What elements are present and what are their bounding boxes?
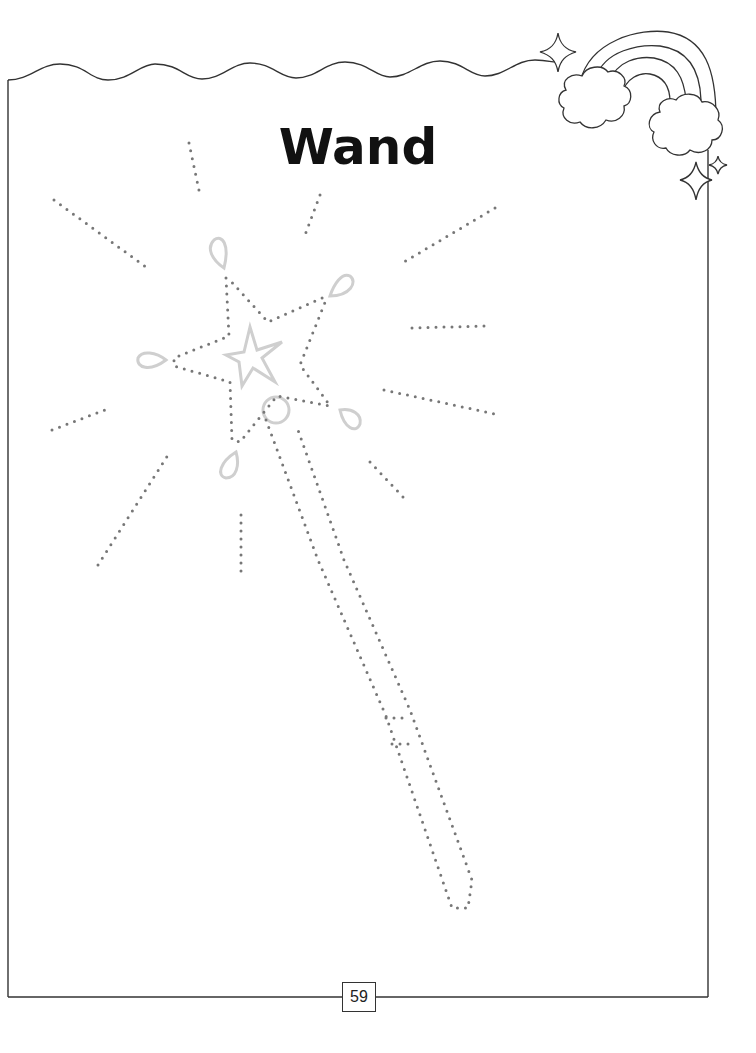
ray-top-mid [305, 195, 320, 235]
drop-top [210, 238, 226, 268]
page-title: Wand [0, 118, 716, 176]
guide-shapes [138, 238, 360, 478]
dotted-lines [52, 143, 495, 908]
page-frame [8, 60, 708, 997]
drop-right [340, 410, 360, 429]
ray-lower-left [98, 455, 168, 565]
ray-upper-left [54, 200, 150, 270]
drop-bottom [221, 452, 238, 478]
page-number: 59 [342, 982, 376, 1012]
drop-top-right [330, 275, 353, 296]
ray-upper-right [404, 208, 495, 262]
star-icon [226, 327, 282, 386]
wand-handle-dots [266, 420, 472, 908]
ray-right-low [384, 390, 495, 414]
drop-left [138, 353, 166, 367]
ray-left [52, 408, 110, 430]
ray-lower-right [370, 462, 404, 498]
star-outline-dots [174, 278, 330, 442]
wavy-top-border [8, 60, 562, 80]
sparkle-large-top [540, 33, 576, 72]
ray-right [412, 326, 485, 328]
